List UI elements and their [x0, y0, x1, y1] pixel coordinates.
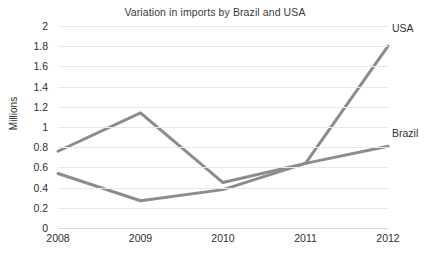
gridline — [58, 167, 388, 168]
y-tick-label: 0.4 — [10, 182, 48, 194]
series-line-brazil — [58, 146, 388, 201]
gridline — [58, 127, 388, 128]
y-tick-label: 1.6 — [10, 60, 48, 72]
gridline — [58, 228, 388, 229]
x-tick-label: 2009 — [111, 232, 171, 244]
plot-area — [58, 26, 388, 228]
y-tick-label: 1.4 — [10, 81, 48, 93]
gridline — [58, 208, 388, 209]
y-tick-label: 0.8 — [10, 141, 48, 153]
x-tick-label: 2012 — [358, 232, 418, 244]
x-axis-ticks: 20082009201020112012 — [58, 232, 388, 252]
gridline — [58, 26, 388, 27]
x-tick-label: 2010 — [193, 232, 253, 244]
gridline — [58, 46, 388, 47]
series-label-brazil: Brazil — [392, 127, 418, 139]
series-label-usa: USA — [392, 22, 414, 34]
gridline — [58, 107, 388, 108]
gridline — [58, 66, 388, 67]
y-tick-label: 2 — [10, 20, 48, 32]
chart-container: Variation in imports by Brazil and USA M… — [0, 0, 430, 258]
y-tick-label: 1.2 — [10, 101, 48, 113]
y-tick-label: 0.6 — [10, 161, 48, 173]
y-tick-label: 1.8 — [10, 40, 48, 52]
y-tick-label: 1 — [10, 121, 48, 133]
x-tick-label: 2011 — [276, 232, 336, 244]
chart-title: Variation in imports by Brazil and USA — [0, 6, 430, 18]
x-tick-label: 2008 — [28, 232, 88, 244]
gridline — [58, 147, 388, 148]
y-axis-ticks: 21.81.61.41.210.80.60.40.20 — [10, 26, 52, 228]
y-tick-label: 0.2 — [10, 202, 48, 214]
gridline — [58, 87, 388, 88]
gridline — [58, 188, 388, 189]
